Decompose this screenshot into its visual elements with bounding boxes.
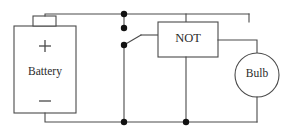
junction-dot-switch-pivot (121, 42, 127, 48)
junction-dot-bottom-left (121, 119, 127, 125)
junction-dot-top-rail (121, 11, 127, 17)
wire-bottom-rail (45, 113, 257, 122)
battery-terminal-cap (33, 16, 56, 26)
wire-not-output-to-bulb (218, 40, 257, 53)
wire-top-rail (45, 14, 249, 16)
not-gate-label: NOT (158, 32, 218, 45)
circuit-diagram: Battery NOT Bulb (0, 0, 298, 136)
bulb-label: Bulb (232, 68, 282, 80)
junction-dot-bottom-right (183, 119, 189, 125)
battery-label: Battery (0, 66, 90, 78)
junction-dot-switch-top (121, 25, 127, 31)
